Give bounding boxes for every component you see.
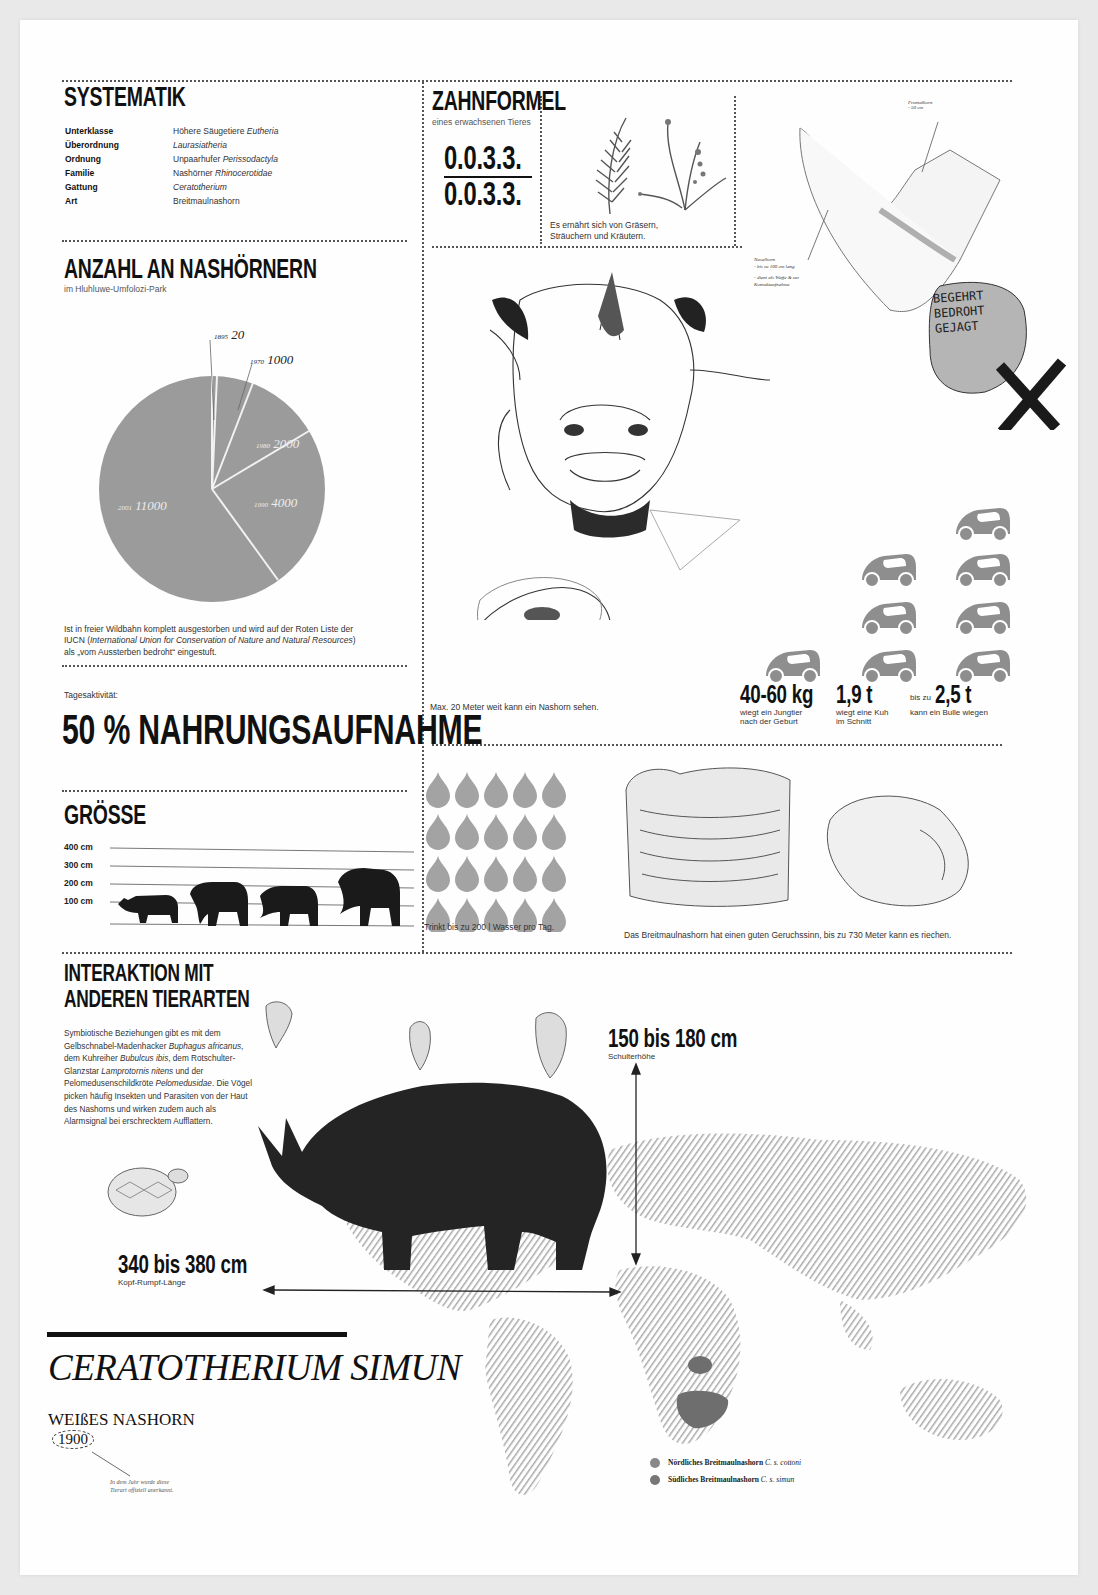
shoulder-height-value: 150 bis 180 cm [608,1024,737,1052]
plants-illustration [560,112,730,222]
legend-item-southern: Südliches Breitmaulnashorn C. s. simun [650,1471,801,1488]
taxonomy-value: Unpaarhufer [173,154,220,164]
shoulder-height-label: Schulterhöhe [608,1052,787,1063]
divider-vertical-zahn [540,96,542,244]
taxonomy-row: OrdnungUnpaarhufer Perissodactyla [65,152,278,166]
taxonomy-key: Ordnung [65,152,173,166]
taxonomy-key: Art [65,194,173,208]
pie-label-value: 20 [231,327,244,342]
legend-latin: C. s. simun [761,1475,794,1484]
divider-vertical-main [422,82,424,952]
legend-swatch [650,1475,660,1485]
groesse-title: GRÖSSE [64,800,146,831]
diet-caption-line: Sträuchern und Kräutern. [550,231,658,242]
taxonomy-latin: Eutheria [247,126,279,136]
recognition-year: 1900 [52,1430,94,1449]
year-note: In dem Jahr wurde diese Tierart offiziel… [110,1478,174,1495]
species-latin: Pelomedusidae [155,1079,211,1088]
divider-vertical-diet [734,96,736,246]
taxonomy-key: Familie [65,166,173,180]
iucn-note: Ist in freier Wildbahn komplett ausgesto… [64,624,414,658]
pie-label-value: 4000 [271,495,297,510]
turtle-illustration [86,1150,196,1230]
frontal-horn-label: Frontalhorn - 50 cm [908,100,933,110]
iucn-abbr: IUCN ( [64,635,90,645]
iucn-full-name: International Union for Conservation of … [90,635,353,645]
pie-label-1895: 1895 20 [214,327,244,343]
smell-caption: Das Breitmaulnashorn hat einen guten Ger… [624,930,951,941]
diet-caption: Es ernährt sich von Gräsern, Sträuchern … [550,220,658,243]
activity-label: Tagesaktivität: [64,690,118,701]
body-length-label: Kopf-Rumpf-Länge [118,1278,297,1289]
divider-top [62,80,1012,82]
weight-stat-bull: bis zu 2,5 t kann ein Bulle wiegen [910,680,988,717]
taxonomy-value: Breitmaulnashorn [173,194,240,208]
weight-stat-cow: 1,9 t wiegt eine Kuh im Schnitt [836,680,888,726]
legend-swatch [650,1458,660,1468]
weight-value: 40-60 kg [740,680,813,708]
species-latin: Bubulcus ibis [120,1054,168,1063]
weight-stat-calf: 40-60 kg wiegt ein Jungtier nach der Geb… [740,680,842,726]
taxonomy-row: GattungCeratotherium [65,180,278,194]
zahnformel-title: ZAHNFORMEL [432,86,566,117]
car-weight-pictogram [740,500,1020,690]
pie-label-value: 1000 [267,352,293,367]
weight-prefix: bis zu [910,693,931,704]
taxonomy-key: Überordnung [65,138,173,152]
activity-headline: 50 % NAHRUNGSAUFNAHME [62,706,483,754]
legend-latin: C. s. cottoni [765,1458,801,1467]
pie-label-1990: 1990 4000 [254,495,297,511]
diet-caption-line: Es ernährt sich von Gräsern, [550,220,658,231]
interaction-body: Symbiotische Beziehungen gibt es mit dem… [64,1028,254,1129]
interaction-title-line: ANDEREN TIERARTEN [64,986,249,1012]
pie-label-value: 2000 [273,436,299,451]
taxonomy-value: Nashörner [173,168,213,178]
weight-desc: nach der Geburt [740,717,842,726]
weight-desc: kann ein Bulle wiegen [910,708,988,717]
threat-stamp: BEGEHRT BEDROHT GEJAGT [932,288,986,336]
taxonomy-key: Gattung [65,180,173,194]
tooth-formula-lower: 0.0.3.3. [444,178,522,210]
water-drops-pictogram [426,772,586,932]
pie-label-year: 1970 [250,358,264,366]
population-title: ANZAHL AN NASHÖRNERN [64,254,317,285]
pie-label-value: 11000 [135,498,167,513]
sight-caption: Max. 20 Meter weit kann ein Nashorn sehe… [430,702,599,713]
body-length-stat: 340 bis 380 cm Kopf-Rumpf-Länge [118,1250,297,1289]
weight-desc: wiegt ein Jungtier [740,708,842,717]
species-latin-name: CERATOTHERIUM SIMUN [48,1346,461,1389]
pie-label-1970: 1970 1000 [250,352,293,368]
interaction-title: INTERAKTION MIT ANDEREN TIERARTEN [64,960,249,1012]
tooth-formula-upper: 0.0.3.3. [444,142,522,174]
divider-population [62,665,407,667]
water-caption: Trinkt bis zu 200 l Wasser pro Tag. [424,922,554,933]
taxonomy-latin: Ceratotherium [173,182,227,192]
divider-interaction [62,952,1012,954]
pie-label-year: 1990 [254,501,268,509]
iucn-note-line: Ist in freier Wildbahn komplett ausgesto… [64,624,414,635]
systematik-title: SYSTEMATIK [64,82,186,113]
divider-zahn [432,246,742,248]
size-gridlines-and-silhouettes [64,842,414,932]
iucn-note-line: als „vom Aussterben bedroht“ eingestuft. [64,647,414,658]
rhino-head-illustration [450,260,770,620]
weight-value: 2,5 t [935,680,971,708]
title-rule [47,1332,347,1337]
year-note-line: Tierart offiziell anerkannt. [110,1486,174,1494]
iucn-paren: ) [353,635,356,645]
horn-illustration [780,110,1080,430]
species-latin: Lamprotornis nitens [101,1067,173,1076]
divider-activity [62,790,407,792]
taxonomy-row: ÜberordnungLaurasiatheria [65,138,278,152]
pie-label-2001: 2001 11000 [118,498,167,514]
taxonomy-value: Höhere Säugetiere [173,126,244,136]
legend-name: Nördliches Breitmaulnashorn [668,1458,763,1467]
pie-label-year: 1895 [214,333,228,341]
legend-item-northern: Nördliches Breitmaulnashorn C. s. cotton… [650,1454,801,1471]
pie-label-1980: 1980 2000 [256,436,299,452]
taxonomy-latin: Rhinocerotidae [215,168,272,178]
taxonomy-row: ArtBreitmaulnashorn [65,194,278,208]
divider-weights [432,744,1002,746]
infographic-poster: SYSTEMATIK UnterklasseHöhere Säugetiere … [20,20,1078,1575]
size-comparison-chart: 400 cm 300 cm 200 cm 100 cm [64,842,414,932]
